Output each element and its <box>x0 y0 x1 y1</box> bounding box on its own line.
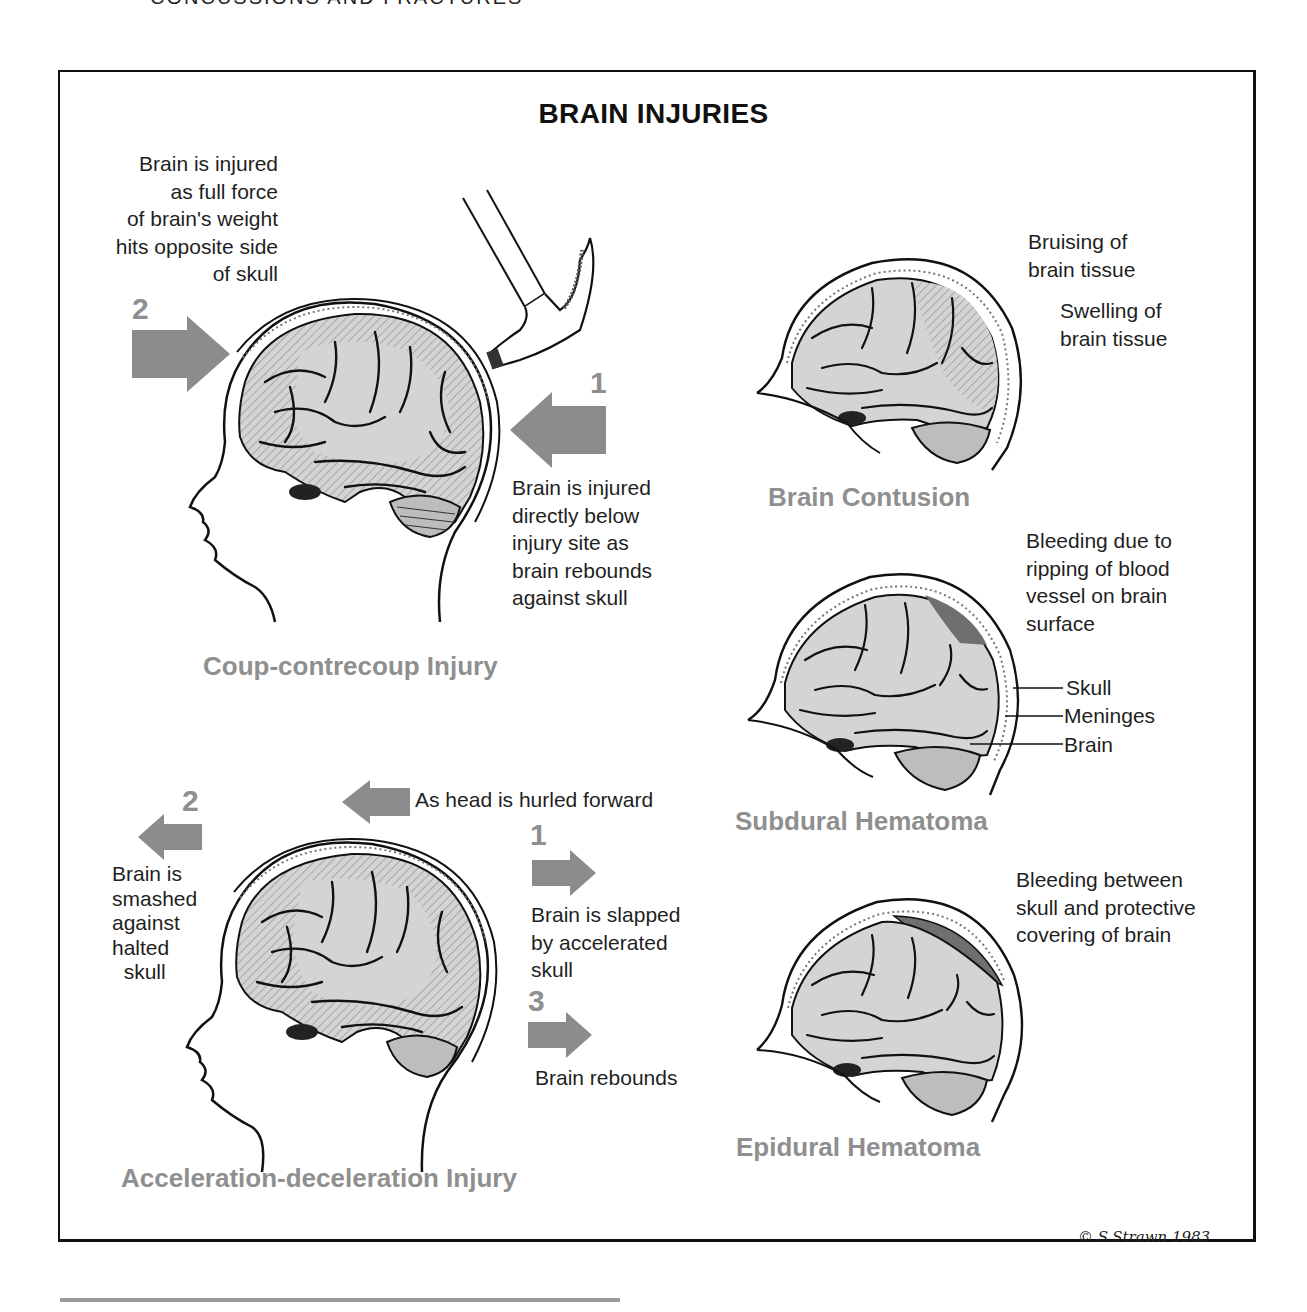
brain-contusion-label: Brain Contusion <box>768 482 970 513</box>
coup-contrecoup-label: Coup-contrecoup Injury <box>203 651 498 682</box>
head-motion-caption: As head is hurled forward <box>415 786 653 814</box>
coup-head-illustration <box>185 292 515 622</box>
arrow-left-icon <box>342 780 410 824</box>
epidural-note: Bleeding between skull and protective co… <box>1016 866 1196 949</box>
brain-contusion-illustration <box>752 248 1032 478</box>
arrow-right-icon <box>528 1012 592 1058</box>
page-header: CONCUSSIONS AND FRACTURES <box>150 0 523 9</box>
artist-signature: © S.Strawn 1983 <box>1078 1228 1210 1246</box>
figure-title: BRAIN INJURIES <box>0 98 1307 130</box>
leader-label-brain: Brain <box>1064 733 1113 757</box>
subdural-hematoma-label: Subdural Hematoma <box>735 806 988 837</box>
contusion-note-bruising: Bruising of brain tissue <box>1028 228 1135 283</box>
leader-label-meninges: Meninges <box>1064 704 1155 728</box>
coup-step2-caption: Brain is injured as full force of brain'… <box>60 150 278 288</box>
arrow-right-icon <box>532 850 596 896</box>
arrow-left-icon <box>510 392 606 468</box>
acceleration-deceleration-label: Acceleration-deceleration Injury <box>121 1163 517 1194</box>
accel-step2-number: 2 <box>182 784 199 818</box>
subdural-note: Bleeding due to ripping of blood vessel … <box>1026 527 1172 637</box>
coup-step1-caption: Brain is injured directly below injury s… <box>512 474 652 612</box>
accel-step3-caption: Brain rebounds <box>535 1064 677 1092</box>
epidural-hematoma-label: Epidural Hematoma <box>736 1132 980 1163</box>
anatomy-leader-lines <box>1005 680 1065 760</box>
accel-step1-caption: Brain is slapped by accelerated skull <box>531 901 680 984</box>
accel-step1-number: 1 <box>530 818 547 852</box>
epidural-hematoma-illustration <box>752 890 1032 1130</box>
acceleration-head-illustration <box>182 832 512 1172</box>
bottom-rule <box>60 1298 620 1302</box>
leader-label-skull: Skull <box>1066 676 1112 700</box>
subdural-hematoma-illustration <box>745 565 1035 805</box>
contusion-note-swelling: Swelling of brain tissue <box>1060 297 1167 352</box>
